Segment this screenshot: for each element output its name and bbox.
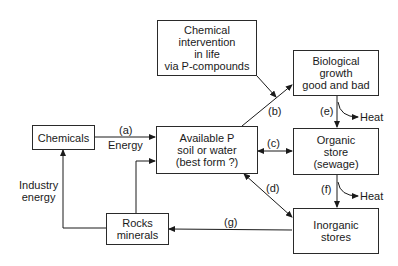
box-line: via P-compounds	[165, 60, 250, 72]
label-b: (b)	[268, 105, 281, 117]
arrow-g	[169, 229, 292, 230]
rocks-minerals-box: Rocks minerals	[106, 213, 169, 245]
box-line: Chemicals	[38, 132, 89, 144]
box-line: in life	[194, 48, 220, 60]
label-c: (c)	[267, 137, 280, 149]
box-line: (sewage)	[313, 158, 358, 170]
chemicals-box: Chemicals	[32, 125, 95, 150]
label-energy: Energy	[108, 139, 143, 151]
arrow-intervention	[257, 76, 276, 97]
box-line: (best form ?)	[176, 156, 238, 168]
box-line: minerals	[117, 229, 159, 241]
box-line: Inorganic	[313, 219, 358, 231]
box-line: Organic	[317, 134, 356, 146]
box-line: growth	[319, 67, 352, 79]
arrow-industry-energy	[63, 150, 106, 228]
box-line: stores	[321, 231, 351, 243]
label-d: (d)	[266, 182, 279, 194]
label-g: (g)	[224, 216, 237, 228]
label-heat-e: Heat	[360, 111, 383, 123]
label-line: energy	[19, 191, 58, 203]
biological-growth-box: Biological growth good and bad	[293, 50, 379, 96]
box-line: Biological	[312, 55, 359, 67]
arrow-rocks-to-available	[136, 161, 155, 213]
organic-store-box: Organic store (sewage)	[293, 128, 379, 175]
box-line: store	[324, 146, 348, 158]
label-a: (a)	[119, 124, 132, 136]
arrow-b	[242, 85, 292, 126]
label-e: (e)	[320, 105, 333, 117]
box-line: Rocks	[122, 217, 153, 229]
arrow-d	[244, 174, 292, 217]
box-line: intervention	[179, 36, 236, 48]
box-line: Available P	[180, 132, 235, 144]
box-line: good and bad	[302, 79, 369, 91]
box-line: Chemical	[184, 24, 230, 36]
available-p-box: Available P soil or water (best form ?)	[156, 126, 258, 174]
label-industry-energy: Industry energy	[19, 179, 58, 203]
box-line: soil or water	[177, 144, 236, 156]
heat-arrow-e	[338, 102, 358, 117]
inorganic-stores-box: Inorganic stores	[293, 208, 379, 254]
label-heat-f: Heat	[360, 190, 383, 202]
label-f: (f)	[321, 183, 331, 195]
label-line: Industry	[19, 179, 58, 191]
heat-arrow-f	[338, 182, 358, 196]
chemical-intervention-box: Chemical intervention in life via P-comp…	[157, 20, 257, 76]
